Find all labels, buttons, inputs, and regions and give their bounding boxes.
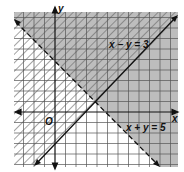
inequality-graph: x − y = 3 x + y = 5 x y O [0, 0, 184, 172]
x-axis-label: x [171, 113, 178, 124]
origin-label: O [45, 116, 53, 127]
y-axis-label: y [57, 3, 64, 14]
label-x-minus-y: x − y = 3 [108, 39, 149, 50]
label-x-plus-y: x + y = 5 [125, 122, 166, 133]
y-axis-arrow-icon [53, 7, 58, 13]
y-axis-arrow-down-icon [53, 163, 58, 169]
